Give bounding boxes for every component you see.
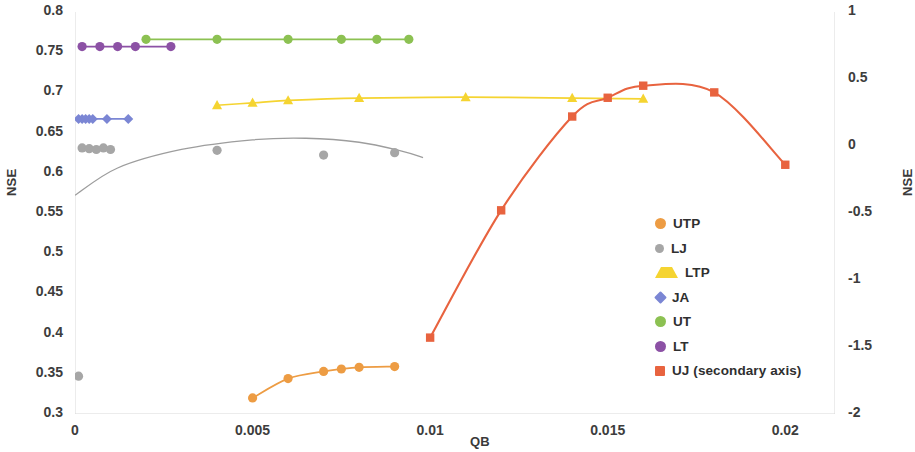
y-axis-left-tick-label: 0.8 [44,2,63,18]
legend-item-label: LJ [671,241,687,256]
data-point [319,151,328,160]
y-axis-right-tick-label: -2 [848,404,860,420]
y-axis-left-title: NSE [4,169,19,196]
data-point [102,114,112,124]
data-point [106,145,115,154]
y-axis-left-tick-label: 0.75 [36,42,63,58]
y-axis-left-tick-label: 0.4 [44,324,63,340]
data-point [131,42,140,51]
legend-item-lt[interactable]: LT [655,339,801,354]
circle-marker-icon [655,244,664,253]
legend-item-utp[interactable]: UTP [655,216,801,231]
x-axis-tick-label: 0.015 [568,422,648,438]
legend-item-ut[interactable]: UT [655,314,801,329]
series-utp [248,362,399,403]
series-line [217,97,643,105]
data-point [283,374,292,383]
legend-item-label: UTP [673,216,700,231]
legend-item-label: UJ (secondary axis) [672,363,801,378]
data-point [248,393,257,402]
y-axis-right-tick-label: -1.5 [848,337,872,353]
x-axis-tick-label: 0.02 [745,422,825,438]
x-axis-title: QB [470,434,490,449]
x-axis-tick-label: 0.005 [213,422,293,438]
data-point [426,333,434,341]
data-point [390,362,399,371]
data-point [141,35,150,44]
y-axis-right-tick-label: -0.5 [848,203,872,219]
x-axis-tick-label: 0 [35,422,115,438]
data-point [113,42,122,51]
y-axis-left-tick-label: 0.35 [36,364,63,380]
y-axis-left-tick-label: 0.55 [36,203,63,219]
legend-item-label: JA [672,290,689,305]
data-point [781,161,789,169]
y-axis-left-tick-label: 0.45 [36,283,63,299]
data-point [568,112,576,120]
data-point [404,35,413,44]
data-point [372,35,381,44]
data-point [390,148,399,157]
series-trendline [75,138,423,195]
data-point [283,35,292,44]
y-axis-left-tick-label: 0.5 [44,243,63,259]
legend-item-ltp[interactable]: LTP [655,265,801,280]
y-axis-left-tick-label: 0.7 [44,82,63,98]
y-axis-left-tick-label: 0.6 [44,163,63,179]
data-point [337,35,346,44]
data-point [212,35,221,44]
circle-marker-icon [655,316,666,327]
y-axis-right-title: NSE [900,169,915,196]
data-point [604,94,612,102]
data-point [123,114,133,124]
legend-item-uj[interactable]: UJ (secondary axis) [655,363,801,378]
legend-item-lj[interactable]: LJ [655,241,801,256]
data-point [78,42,87,51]
data-point [95,42,104,51]
y-axis-left-tick-label: 0.3 [44,404,63,420]
chart-legend: UTPLJLTPJAUTLTUJ (secondary axis) [655,216,801,378]
data-point [319,367,328,376]
data-point [497,206,505,214]
circle-marker-icon [655,218,666,229]
data-point [710,88,718,96]
square-marker-icon [655,366,665,376]
x-axis-tick-label: 0.01 [390,422,470,438]
series-lt [78,42,176,51]
data-point [337,364,346,373]
y-axis-right-tick-label: 0 [848,136,856,152]
data-point [212,146,221,155]
data-point [166,42,175,51]
series-lj [75,138,423,381]
circle-marker-icon [655,341,666,352]
legend-item-label: UT [673,314,691,329]
data-point [639,82,647,90]
data-point [75,372,83,381]
y-axis-left-tick-label: 0.65 [36,123,63,139]
y-axis-right-tick-label: 0.5 [848,69,867,85]
diamond-marker-icon [654,291,667,304]
legend-item-label: LTP [685,265,710,280]
y-axis-right-tick-label: -1 [848,270,860,286]
data-point [355,363,364,372]
y-axis-right-tick-label: 1 [848,2,856,18]
series-ja [75,114,133,124]
triangle-marker-icon [655,267,678,278]
series-ut [141,35,413,44]
legend-item-ja[interactable]: JA [655,290,801,305]
legend-item-label: LT [673,339,689,354]
